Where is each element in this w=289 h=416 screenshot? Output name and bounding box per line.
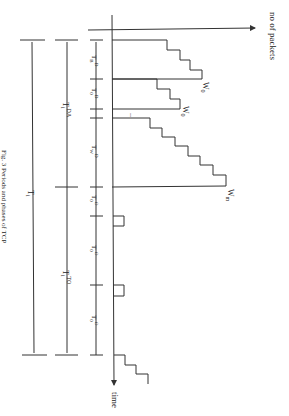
interval-t0o-2: T0O xyxy=(89,245,99,256)
restart-staircase xyxy=(114,355,148,384)
window-staircase-m xyxy=(112,118,226,187)
interval-twd: TWD xyxy=(89,145,99,158)
interval-t0d: T0D xyxy=(89,88,99,99)
tcp-window-diagram: no of packets time W0 W0 .. Wm TBD T0D xyxy=(0,0,289,416)
window-staircase-1 xyxy=(112,40,202,79)
middle-intervals xyxy=(55,40,78,355)
window-label-w0-1: W0 xyxy=(200,82,210,93)
interval-tito: TiTO xyxy=(60,270,72,285)
outer-interval xyxy=(20,40,47,355)
window-staircase-2 xyxy=(112,79,180,109)
interval-tbd: TBD xyxy=(89,55,99,67)
time-axis-label: time xyxy=(110,392,120,408)
figure-caption: Fig. 3 Periods and phases of TCP xyxy=(0,150,8,244)
timeout-probe-2 xyxy=(113,285,124,296)
interval-t0o-3: T0O xyxy=(89,315,99,326)
packets-axis-label: no of packets xyxy=(268,12,278,60)
window-label-wm: Wm xyxy=(225,189,235,202)
timeout-probe-1 xyxy=(113,216,124,226)
packet-axis xyxy=(88,28,255,30)
ellipsis: .. xyxy=(128,113,137,117)
window-label-w0-2: W0 xyxy=(180,106,190,117)
interval-t0o-1: T0O xyxy=(89,195,99,206)
interval-tida: TiDA xyxy=(60,102,72,118)
interval-ti: Ti xyxy=(25,190,35,197)
time-axis xyxy=(112,15,114,385)
